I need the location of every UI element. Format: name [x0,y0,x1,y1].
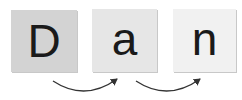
arrows-layer [0,0,242,100]
arrow-a-to-n-icon [136,79,200,91]
arrow-d-to-a-icon [53,79,117,91]
